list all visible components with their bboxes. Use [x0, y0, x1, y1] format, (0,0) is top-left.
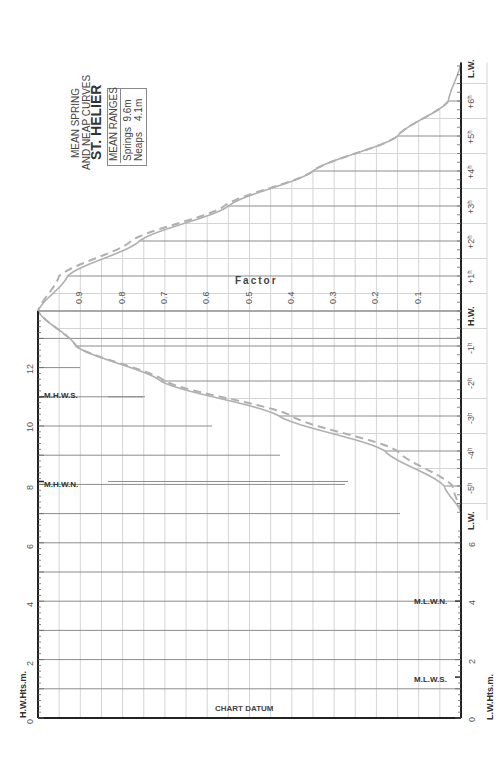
lw-heights-label: L.W.Hts.m.: [485, 674, 495, 720]
legend-divider: [120, 89, 121, 163]
lw-height-tick-label: 0: [467, 717, 477, 722]
factor-tick-label: 0.6: [201, 291, 211, 304]
hour-tick-label: +1ʰ: [466, 270, 476, 284]
fine-grid: [38, 63, 487, 719]
hw-height-tick-label: 12: [25, 364, 35, 374]
factor-tick-label: 0.7: [159, 291, 169, 304]
hw-label: H.W.: [466, 307, 476, 327]
hour-tick-label: +4ʰ: [466, 165, 476, 179]
hour-tick-label: -5ʰ: [466, 483, 476, 494]
mhws-label: M.H.W.S.: [44, 391, 78, 400]
hw-height-tick-label: 4: [25, 602, 35, 607]
hw-height-tick-label: 0: [25, 719, 35, 724]
mlwn-label: M.L.W.N.: [414, 597, 447, 606]
factor-tick-label: 0.9: [74, 291, 84, 304]
hour-tick-label: +6ʰ: [466, 95, 476, 109]
factor-tick-label: 0.4: [286, 291, 296, 304]
legend-springs: Springs 9.6m: [122, 99, 133, 161]
lw-height-tick-label: 6: [467, 542, 477, 547]
hour-tick-label: +5ʰ: [466, 130, 476, 144]
factor-tick-label: 0.5: [244, 291, 254, 304]
legend-header: MEAN RANGES: [108, 87, 119, 161]
hw-heights-label: H.W.Hts.m.: [18, 671, 28, 718]
factor-label: Factor: [235, 275, 278, 286]
hour-tick-label: -4ʰ: [466, 448, 476, 459]
lw-height-tick-label: 4: [467, 600, 477, 605]
chart-datum-label: CHART DATUM: [215, 704, 274, 713]
factor-tick-label: 0.1: [413, 291, 423, 304]
lw-top-label: L.W.: [466, 60, 476, 79]
hw-height-tick-label: 6: [25, 544, 35, 549]
hour-tick-label: -1ʰ: [466, 343, 476, 354]
chart-subtitle-line1: MEAN SPRING: [70, 88, 81, 158]
factor-tick-label: 0.3: [328, 291, 338, 304]
hour-tick-label: -2ʰ: [466, 378, 476, 389]
hw-height-tick-label: 2: [25, 661, 35, 666]
factor-tick-label: 0.2: [370, 291, 380, 304]
legend-neaps: Neaps 4.1m: [133, 99, 144, 161]
mlws-label: M.L.W.S.: [414, 675, 447, 684]
lw-bottom-label: L.W.: [466, 512, 476, 531]
hour-tick-label: +3ʰ: [466, 200, 476, 214]
hour-tick-label: -3ʰ: [466, 413, 476, 424]
lw-height-tick-label: 2: [467, 659, 477, 664]
hw-height-tick-label: 8: [25, 485, 35, 490]
factor-tick-label: 0.8: [117, 291, 127, 304]
hw-height-tick-label: 10: [25, 422, 35, 432]
chart-subtitle-line2: AND NEAP CURVES: [81, 75, 92, 170]
mhwn-label: M.H.W.N.: [44, 480, 78, 489]
hour-tick-label: +2ʰ: [466, 235, 476, 249]
